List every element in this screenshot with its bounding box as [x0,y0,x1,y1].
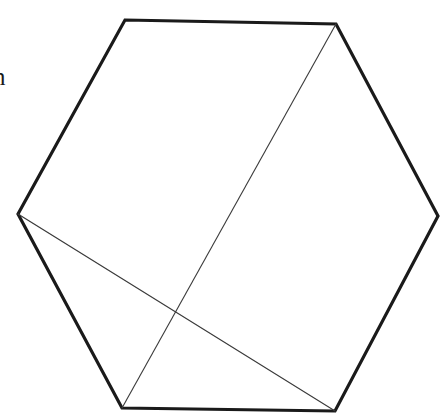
figure-canvas: n [0,0,448,416]
margin-glyph-fragment: n [0,64,6,89]
hexagon-diagram [0,0,448,416]
diagram-background [0,0,448,416]
